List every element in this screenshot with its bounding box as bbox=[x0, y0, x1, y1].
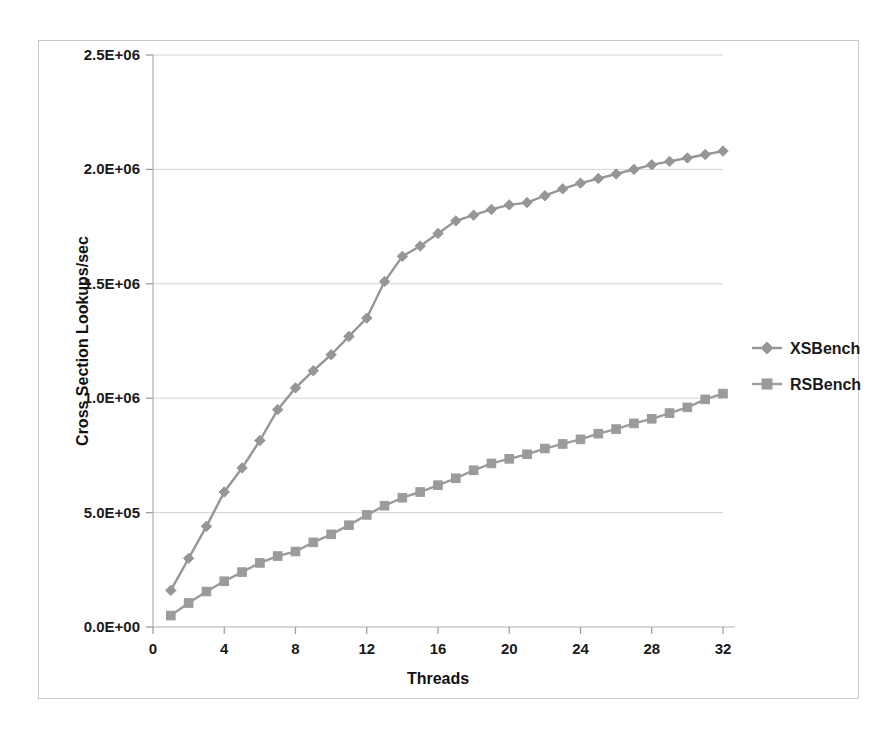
data-point-rsbench bbox=[309, 538, 318, 547]
data-point-xsbench bbox=[504, 200, 514, 210]
y-tick-label: 2.5E+06 bbox=[84, 46, 140, 63]
data-point-rsbench bbox=[452, 474, 461, 483]
x-tick-label: 0 bbox=[149, 640, 157, 657]
y-tick-label: 5.0E+05 bbox=[84, 504, 140, 521]
y-tick-label: 1.5E+06 bbox=[84, 275, 140, 292]
data-point-rsbench bbox=[558, 440, 567, 449]
x-axis-title: Threads bbox=[407, 670, 469, 687]
data-point-xsbench bbox=[557, 184, 567, 194]
x-tick-label: 32 bbox=[715, 640, 732, 657]
data-point-rsbench bbox=[398, 493, 407, 502]
data-point-xsbench bbox=[718, 146, 728, 156]
data-point-rsbench bbox=[202, 587, 211, 596]
data-point-xsbench bbox=[166, 585, 176, 595]
data-point-xsbench bbox=[575, 178, 585, 188]
data-point-xsbench bbox=[522, 197, 532, 207]
y-tick-label: 0.0E+00 bbox=[84, 618, 140, 635]
data-point-xsbench bbox=[700, 149, 710, 159]
data-point-rsbench bbox=[665, 409, 674, 418]
legend-label-rsbench: RSBench bbox=[790, 376, 861, 393]
data-point-rsbench bbox=[487, 459, 496, 468]
x-tick-label: 28 bbox=[643, 640, 660, 657]
data-point-rsbench bbox=[576, 435, 585, 444]
x-tick-label: 20 bbox=[501, 640, 518, 657]
x-tick-label: 8 bbox=[291, 640, 299, 657]
x-tick-label: 16 bbox=[430, 640, 447, 657]
data-point-xsbench bbox=[629, 164, 639, 174]
chart-container: 0.0E+005.0E+051.0E+061.5E+062.0E+062.5E+… bbox=[0, 0, 896, 740]
data-point-xsbench bbox=[201, 521, 211, 531]
x-tick-label: 12 bbox=[358, 640, 375, 657]
data-point-rsbench bbox=[327, 530, 336, 539]
legend-label-xsbench: XSBench bbox=[790, 340, 860, 357]
legend-marker-xsbench bbox=[761, 342, 773, 354]
data-point-rsbench bbox=[273, 552, 282, 561]
data-point-rsbench bbox=[167, 611, 176, 620]
data-point-rsbench bbox=[256, 559, 265, 568]
chart-plot-area: 0.0E+005.0E+051.0E+061.5E+062.0E+062.5E+… bbox=[0, 0, 896, 740]
x-tick-label: 24 bbox=[572, 640, 589, 657]
data-point-rsbench bbox=[523, 450, 532, 459]
data-point-xsbench bbox=[664, 156, 674, 166]
data-point-xsbench bbox=[593, 173, 603, 183]
y-axis-title: Cross Section Lookups/sec bbox=[74, 236, 91, 446]
data-point-rsbench bbox=[594, 429, 603, 438]
data-point-rsbench bbox=[630, 419, 639, 428]
data-point-rsbench bbox=[380, 501, 389, 510]
data-point-rsbench bbox=[541, 444, 550, 453]
data-point-rsbench bbox=[683, 403, 692, 412]
x-tick-label: 4 bbox=[220, 640, 229, 657]
series-line-xsbench bbox=[171, 151, 723, 590]
y-tick-label: 2.0E+06 bbox=[84, 160, 140, 177]
data-point-rsbench bbox=[184, 599, 193, 608]
y-tick-label: 1.0E+06 bbox=[84, 389, 140, 406]
data-point-rsbench bbox=[612, 425, 621, 434]
data-point-rsbench bbox=[434, 481, 443, 490]
data-point-rsbench bbox=[469, 466, 478, 475]
data-point-xsbench bbox=[647, 160, 657, 170]
data-point-rsbench bbox=[238, 568, 247, 577]
data-point-rsbench bbox=[362, 511, 371, 520]
data-point-rsbench bbox=[701, 395, 710, 404]
legend-marker-rsbench bbox=[762, 379, 772, 389]
data-point-rsbench bbox=[416, 488, 425, 497]
data-point-rsbench bbox=[647, 414, 656, 423]
data-point-xsbench bbox=[183, 553, 193, 563]
data-point-rsbench bbox=[345, 521, 354, 530]
data-point-rsbench bbox=[505, 455, 514, 464]
data-point-rsbench bbox=[291, 547, 300, 556]
data-point-rsbench bbox=[719, 389, 728, 398]
data-point-xsbench bbox=[682, 153, 692, 163]
series-line-rsbench bbox=[171, 394, 723, 616]
data-point-rsbench bbox=[220, 577, 229, 586]
data-point-xsbench bbox=[540, 191, 550, 201]
data-point-xsbench bbox=[611, 169, 621, 179]
data-point-xsbench bbox=[486, 204, 496, 214]
data-point-xsbench bbox=[468, 210, 478, 220]
